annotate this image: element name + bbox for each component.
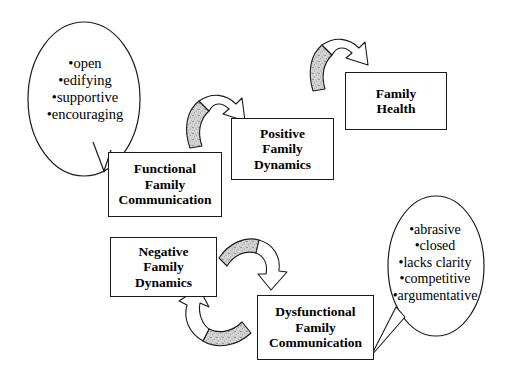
arrow-negative-to-dysfunctional	[219, 239, 287, 290]
box-line: Dysfunctional	[275, 304, 355, 319]
box-negative-family-dynamics[interactable]: Negative Family Dynamics	[110, 237, 217, 297]
callout-list-item: •encouraging	[30, 106, 140, 123]
diagram-canvas: Functional Family Communication Positive…	[0, 0, 509, 381]
box-line: Dynamics	[254, 157, 311, 172]
box-line: Functional	[134, 161, 196, 176]
box-line: Family	[376, 86, 417, 101]
box-line: Dynamics	[135, 275, 192, 290]
callout-list-item: •argumentative	[382, 288, 488, 304]
box-family-health[interactable]: Family Health	[345, 72, 447, 130]
box-line: Family	[143, 259, 184, 274]
callout-dysfunctional-traits-list: •abrasive •closed •lacks clarity •compet…	[382, 222, 488, 304]
callout-list-item: •supportive	[30, 89, 140, 106]
box-dysfunctional-family-communication[interactable]: Dysfunctional Family Communication	[257, 295, 374, 360]
box-functional-family-communication[interactable]: Functional Family Communication	[108, 152, 222, 217]
callout-list-item: •lacks clarity	[382, 255, 488, 271]
box-line: Family	[295, 320, 336, 335]
callout-list-item: •edifying	[30, 72, 140, 89]
box-line: Communication	[118, 192, 211, 207]
box-line: Communication	[269, 335, 362, 350]
callout-list-item: •closed	[382, 238, 488, 254]
box-line: Health	[377, 101, 416, 116]
box-line: Positive	[260, 126, 305, 141]
box-line: Negative	[138, 244, 188, 259]
box-line: Family	[262, 141, 303, 156]
callout-list-item: •open	[30, 55, 140, 72]
callout-list-item: •competitive	[382, 271, 488, 287]
callout-list-item: •abrasive	[382, 222, 488, 238]
callout-functional-traits-list: •open •edifying •supportive •encouraging	[30, 55, 140, 123]
box-positive-family-dynamics[interactable]: Positive Family Dynamics	[231, 118, 334, 180]
box-line: Family	[145, 177, 186, 192]
